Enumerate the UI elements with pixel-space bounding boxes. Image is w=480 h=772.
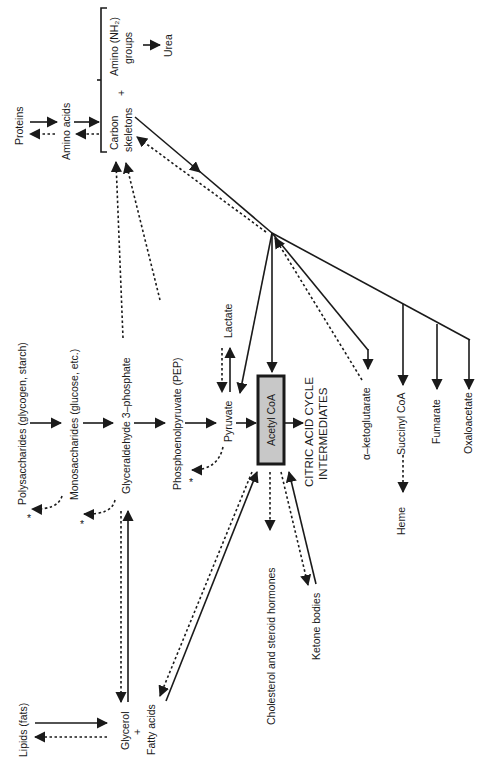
arrow-branch-to-carbon xyxy=(137,137,266,232)
line-branch-to-akg xyxy=(272,233,368,350)
arrow-acetylcoa-to-ketone xyxy=(281,472,308,585)
label-heme: Heme xyxy=(395,507,407,535)
label-carbon: Carbon xyxy=(108,115,120,150)
label-acetyl-coa: Acetyl CoA xyxy=(265,394,277,446)
label-ketone-bodies: Ketone bodies xyxy=(310,593,322,660)
label-pep: Phosphoenolpyruvate (PEP) xyxy=(171,358,183,491)
label-urea: Urea xyxy=(162,34,174,57)
label-glyceraldehyde: Glyceraldehyde 3–phosphate xyxy=(120,357,132,494)
label-monosaccharides: Monosaccharides (glucose, etc.) xyxy=(68,349,80,500)
label-citric-line1: CITRIC ACID CYCLE xyxy=(303,377,315,487)
arrow-ketone-to-acetylcoa xyxy=(289,472,316,584)
asterisk-1: * xyxy=(27,512,31,524)
label-skeletons: skeletons xyxy=(122,108,134,152)
arrow-branch-to-pyruvate xyxy=(240,233,272,393)
label-alpha-ketoglutarate: α–ketoglutarate xyxy=(360,387,372,460)
arrow-akg-to-branch xyxy=(275,238,362,380)
arrow-g3p-to-mono xyxy=(84,500,115,514)
label-lactate: Lactate xyxy=(222,303,234,338)
arrow-pyruvate-to-pep xyxy=(192,447,223,470)
label-amino-nh2-line2: groups xyxy=(122,32,134,64)
label-proteins: Proteins xyxy=(13,106,25,145)
asterisk-2: * xyxy=(80,518,84,530)
label-fatty-acids: Fatty acids xyxy=(145,704,157,755)
arrow-fatty-to-acetylcoa xyxy=(166,472,257,701)
label-plus-lipid: + xyxy=(131,729,143,735)
label-fumarate: Fumarate xyxy=(430,399,442,444)
label-lipids: Lipids (fats) xyxy=(17,703,29,757)
arrow-acetylcoa-to-fatty xyxy=(160,472,252,696)
line-branch-to-oxaloacetate xyxy=(272,233,470,340)
label-succinyl-coa: Succinyl CoA xyxy=(395,393,407,455)
label-amino-nh2-line1: Amino (NH₂) xyxy=(108,17,120,76)
label-cholesterol: Cholesterol and steroid hormones xyxy=(265,567,277,725)
asterisk-3: * xyxy=(189,476,193,488)
label-pyruvate: Pyruvate xyxy=(222,400,234,442)
label-plus-amino: + xyxy=(115,90,127,96)
label-polysaccharides: Polysaccharides (glycogen, starch) xyxy=(16,342,28,505)
arrow-carbon-to-branch xyxy=(135,117,200,172)
label-oxaloacetate: Oxaloacetate xyxy=(462,392,474,454)
label-glycerol: Glycerol xyxy=(119,711,131,750)
arrow-g3p-to-carbon xyxy=(116,162,123,338)
label-amino-acids: Amino acids xyxy=(60,103,72,160)
arrow-mono-to-poly xyxy=(32,496,62,509)
arrow-pep-to-carbon xyxy=(126,163,160,300)
metabolic-pathway-diagram: Proteins Amino acids Carbon skeletons + … xyxy=(0,0,480,772)
acetyl-coa-node: Acetyl CoA xyxy=(258,376,284,464)
amino-acid-bracket xyxy=(101,8,107,152)
line-carbon-to-branch xyxy=(198,170,272,233)
label-citric-line2: INTERMEDIATES xyxy=(317,387,329,480)
